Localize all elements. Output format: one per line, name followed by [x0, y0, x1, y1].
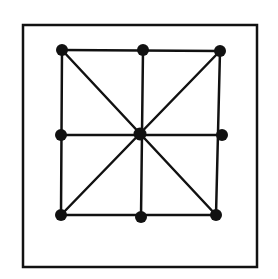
frame-rect: [23, 25, 257, 267]
point-bottom-left: [55, 209, 67, 221]
point-top-left: [56, 44, 68, 56]
point-top-middle: [137, 44, 149, 56]
point-center: [134, 128, 147, 141]
point-bottom-right: [210, 209, 222, 221]
morris-board: [0, 0, 278, 279]
point-middle-left: [55, 129, 67, 141]
point-middle-right: [216, 129, 228, 141]
point-top-right: [214, 45, 226, 57]
point-bottom-middle: [135, 211, 147, 223]
outer-frame: [23, 25, 257, 267]
